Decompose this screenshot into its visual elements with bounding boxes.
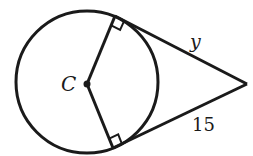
tangent-top bbox=[115, 16, 247, 84]
diagram-svg: C y 15 bbox=[0, 0, 253, 156]
center-label: C bbox=[61, 72, 76, 96]
tangent-bottom bbox=[113, 84, 247, 148]
label-y: y bbox=[189, 30, 201, 52]
label-15: 15 bbox=[192, 114, 215, 135]
diagram-canvas: C y 15 bbox=[0, 0, 253, 156]
center-point bbox=[84, 81, 91, 88]
